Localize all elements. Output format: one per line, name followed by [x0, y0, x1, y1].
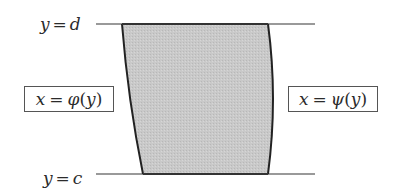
label-y-equals-d: y=d [40, 16, 81, 33]
var-x: x [36, 89, 46, 109]
var-y: y [43, 168, 53, 188]
label-y-equals-c: y=c [43, 170, 82, 187]
equals-sign: = [53, 168, 73, 188]
var-x: x [299, 89, 309, 109]
func-psi: ψ [331, 89, 344, 109]
arg-y: y [351, 89, 361, 109]
value-d: d [70, 14, 81, 34]
equals-sign: = [45, 89, 67, 109]
arg-y: y [86, 89, 96, 109]
var-y: y [40, 14, 50, 34]
label-x-equals-psi-y: x=ψ(y) [288, 86, 378, 112]
func-phi: φ [68, 89, 80, 109]
equals-sign: = [50, 14, 70, 34]
label-x-equals-phi-y: x=φ(y) [24, 86, 114, 112]
value-c: c [73, 168, 83, 188]
equals-sign: = [309, 89, 331, 109]
shaded-region [122, 24, 273, 174]
